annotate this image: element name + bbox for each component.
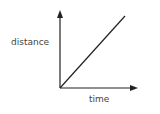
y-axis-label: distance xyxy=(11,37,49,47)
chart-canvas xyxy=(0,0,160,114)
distance-time-graph: distance time xyxy=(0,0,160,114)
x-axis-arrow-icon xyxy=(130,85,138,91)
y-axis xyxy=(57,10,63,88)
data-line xyxy=(60,16,125,88)
x-axis-label: time xyxy=(89,94,109,104)
y-axis-arrow-icon xyxy=(57,10,63,18)
x-axis xyxy=(60,85,138,91)
